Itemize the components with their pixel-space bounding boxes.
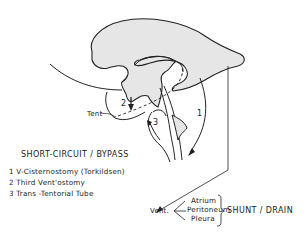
brainstem-curve bbox=[153, 110, 166, 116]
shunt-target-peritoneum: Peritoneum bbox=[187, 206, 230, 213]
shunt-tube bbox=[160, 66, 228, 210]
bypass-item-3: 3 Trans -Tentorial Tube bbox=[9, 190, 125, 197]
shunt-target-atrium: Atrium bbox=[187, 197, 230, 204]
label-num-3: 3 bbox=[153, 119, 158, 127]
ventricle-shape bbox=[91, 19, 244, 107]
shunt-title: SHUNT / DRAIN bbox=[227, 207, 293, 215]
bypass-list: 1 V-Cisternostomy (Torkildsen) 2 Third V… bbox=[9, 168, 125, 202]
bypass-title: SHORT-CIRCUIT / BYPASS bbox=[21, 151, 129, 159]
label-vent: Vent. bbox=[150, 208, 169, 215]
arrowhead-1 bbox=[188, 148, 195, 156]
label-num-1: 1 bbox=[197, 110, 202, 118]
label-tent: Tent bbox=[87, 111, 102, 118]
bypass-item-1: 1 V-Cisternostomy (Torkildsen) bbox=[9, 168, 125, 175]
arrowhead-2 bbox=[128, 104, 134, 111]
bypass-item-2: 2 Third Vent'ostomy bbox=[9, 179, 125, 186]
outer-brain-curve bbox=[50, 64, 122, 90]
label-num-2: 2 bbox=[121, 100, 126, 108]
shunt-targets: Atrium Peritoneum Pleura bbox=[187, 197, 230, 225]
fourth-ventricle bbox=[172, 115, 187, 140]
cerebellum-outline bbox=[148, 112, 170, 162]
aqueduct-left bbox=[160, 88, 175, 160]
vent-branch bbox=[174, 201, 185, 220]
shunt-target-pleura: Pleura bbox=[187, 215, 230, 222]
